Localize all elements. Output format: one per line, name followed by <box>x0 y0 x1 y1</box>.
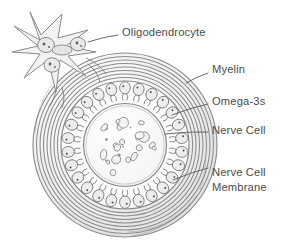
label-nerve-cell-membrane-line1: Nerve Cell <box>212 166 266 178</box>
diagram-root: Oligodendrocyte Myelin Omega-3s Nerve Ce… <box>0 0 306 248</box>
oligodendrocyte-vesicle <box>52 45 72 55</box>
leader-oligodendrocyte <box>88 35 118 42</box>
nerve-cell-organelle <box>118 117 128 128</box>
label-nerve-cell-membrane-line2: Membrane <box>212 181 267 193</box>
nerve-cell-speck <box>118 153 121 156</box>
nerve-cell-organelle <box>125 157 131 163</box>
leader-myelin <box>186 73 208 83</box>
nerve-cell-speck <box>130 127 132 129</box>
label-omega-3s: Omega-3s <box>212 95 266 107</box>
nerve-cell-speck <box>105 138 108 141</box>
nucleolus-dot <box>54 66 56 68</box>
omega3-head <box>120 196 131 208</box>
oligodendrocyte-nucleus <box>71 37 86 51</box>
nucleolus-dot <box>48 46 50 48</box>
label-myelin: Myelin <box>212 63 245 75</box>
nerve-cell-organelle <box>138 120 144 125</box>
omega3-head-dot <box>122 85 124 87</box>
label-nerve-cell: Nerve Cell <box>212 124 266 136</box>
label-oligodendrocyte: Oligodendrocyte <box>122 26 206 38</box>
omega3-head <box>120 82 131 94</box>
nucleolus-dot <box>43 43 46 46</box>
nucleolus-dot <box>80 45 82 47</box>
oligodendrocyte-nucleus <box>44 58 60 72</box>
nerve-cell-diagram: Oligodendrocyte Myelin Omega-3s Nerve Ce… <box>0 0 306 248</box>
nucleolus-dot <box>76 42 79 45</box>
nerve-cell-organelle <box>107 160 110 164</box>
nerve-cell-organelle <box>110 169 116 176</box>
nerve-cell-speck <box>122 145 124 147</box>
omega3-head-dot <box>126 203 128 205</box>
nerve-cell-speck <box>105 159 107 161</box>
nucleolus-dot <box>49 63 52 66</box>
